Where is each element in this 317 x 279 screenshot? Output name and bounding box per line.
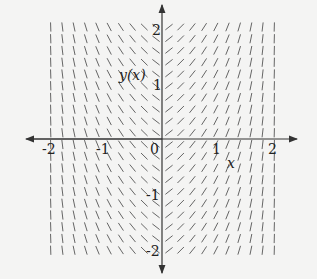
slope-segment: [84, 58, 87, 67]
slope-segment: [190, 59, 196, 66]
slope-segment: [73, 81, 75, 90]
slope-segment: [262, 234, 263, 243]
slope-segment: [190, 47, 196, 54]
slope-segment: [214, 105, 218, 113]
slope-segment: [226, 175, 229, 184]
slope-segment: [118, 223, 123, 231]
slope-segment: [238, 58, 241, 67]
y-axis-label: y(x): [118, 67, 146, 83]
slope-segment: [238, 128, 241, 137]
slope-segment: [165, 59, 172, 65]
slope-segment: [96, 129, 100, 138]
y-tick-label-1: 1: [153, 77, 162, 93]
slope-segment: [262, 163, 263, 172]
slope-segment: [118, 94, 123, 102]
slope-segment: [118, 35, 123, 43]
slope-segment: [226, 187, 229, 196]
slope-segment: [141, 36, 148, 42]
slope-segment: [130, 117, 136, 124]
slope-segment: [165, 106, 172, 112]
slope-segment: [107, 23, 111, 31]
slope-segment: [130, 235, 136, 242]
slope-segment: [107, 211, 111, 219]
slope-segment: [165, 212, 172, 218]
slope-segment: [96, 46, 100, 55]
slope-segment: [165, 118, 172, 124]
slope-segment: [84, 128, 87, 137]
slope-segment: [214, 223, 218, 231]
slope-segment: [214, 164, 218, 172]
slope-segment: [262, 199, 263, 208]
slope-segment: [107, 199, 111, 207]
slope-segment: [190, 153, 196, 160]
slope-segment: [118, 117, 123, 125]
slope-segment: [177, 223, 184, 230]
slope-segment: [238, 140, 241, 149]
slope-segment: [250, 93, 252, 102]
slope-segment: [84, 117, 87, 126]
slope-segment: [238, 246, 241, 255]
slope-segment: [202, 176, 207, 184]
slope-segment: [177, 118, 184, 125]
slope-segment: [84, 211, 87, 220]
slope-segment: [107, 234, 111, 242]
slope-segment: [84, 175, 87, 184]
slope-segment: [262, 69, 263, 78]
slope-segment: [118, 188, 123, 196]
slope-segment: [96, 199, 100, 208]
slope-field-figure: -2 -1 0 1 2 2 1 -1 -2 y(x) x: [0, 0, 317, 279]
slope-segment: [226, 93, 229, 102]
slope-segment: [165, 200, 172, 206]
slope-segment: [190, 188, 196, 195]
slope-segment: [177, 82, 184, 89]
y-tick-label-2: 2: [152, 22, 161, 38]
slope-segment: [73, 46, 75, 55]
slope-segment: [250, 210, 252, 219]
slope-segment: [107, 117, 111, 125]
slope-segment: [73, 234, 75, 243]
slope-segment: [190, 129, 196, 136]
slope-segment: [118, 152, 123, 160]
slope-segment: [190, 23, 196, 30]
slope-segment: [84, 70, 87, 79]
slope-segment: [141, 153, 148, 159]
slope-segment: [226, 117, 229, 126]
slope-segment: [190, 164, 196, 171]
slope-segment: [250, 58, 252, 67]
slope-segment: [190, 247, 196, 254]
slope-segment: [250, 69, 252, 78]
slope-segment: [190, 141, 196, 148]
slope-segment: [73, 175, 75, 184]
slope-segment: [262, 128, 263, 137]
slope-segment: [262, 22, 263, 31]
slope-segment: [262, 187, 263, 196]
slope-segment: [250, 34, 252, 43]
slope-segment: [202, 47, 207, 55]
slope-segment: [141, 235, 148, 241]
slope-segment: [118, 246, 123, 254]
slope-segment: [262, 152, 263, 161]
slope-segment: [118, 176, 123, 184]
slope-segment: [62, 34, 63, 43]
slope-segment: [107, 70, 111, 78]
slope-segment: [202, 82, 207, 90]
slope-segment: [238, 187, 241, 196]
slope-segment: [226, 246, 229, 255]
slope-segment: [250, 140, 252, 149]
slope-segment: [250, 152, 252, 161]
slope-segment: [62, 116, 63, 125]
slope-segment: [62, 105, 63, 114]
slope-segment: [190, 94, 196, 101]
slope-segment: [214, 117, 218, 125]
slope-segment: [118, 129, 123, 137]
slope-segment: [107, 46, 111, 54]
slope-segment: [96, 211, 100, 220]
slope-segment: [202, 23, 207, 31]
slope-segment: [118, 211, 123, 219]
slope-segment: [84, 93, 87, 102]
slope-field-plot: -2 -1 0 1 2 2 1 -1 -2 y(x) x: [0, 0, 317, 279]
slope-segment: [141, 59, 148, 65]
slope-segment: [84, 23, 87, 32]
slope-segment: [141, 106, 148, 112]
slope-segment: [141, 165, 148, 171]
